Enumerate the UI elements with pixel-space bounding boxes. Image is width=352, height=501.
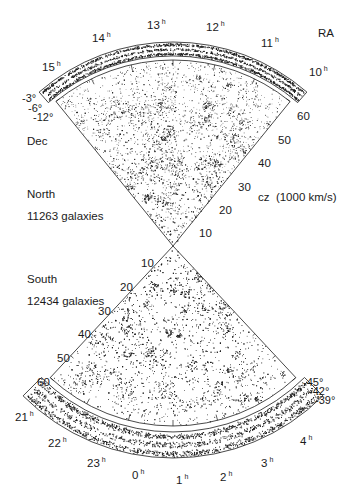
ra-tick-south-4: 4h (300, 434, 312, 448)
cz-tick-north-20: 20 (219, 205, 232, 217)
cz-tick-south-50: 50 (57, 353, 70, 365)
south-galaxy-count: 12434 galaxies (27, 296, 104, 308)
ra-axis-label: RA (318, 28, 334, 40)
cz-tick-north-10: 10 (199, 228, 212, 240)
ra-tick-south-3: 3h (261, 456, 273, 470)
dec-strips (23, 378, 323, 459)
ra-tick-south-2: 2h (220, 470, 232, 484)
ra-tick-north-13: 13h (147, 18, 166, 32)
cz-tick-north-30: 30 (238, 182, 251, 194)
dec-axis-label: Dec (27, 136, 47, 148)
cz-tick-north-60: 60 (297, 111, 310, 123)
cz-tick-south-30: 30 (98, 306, 111, 318)
dec-strips (39, 42, 307, 103)
ra-tick-south-22: 22h (48, 436, 67, 450)
ra-tick-north-12: 12h (206, 20, 225, 34)
ra-tick-north-15: 15h (42, 60, 61, 74)
cz-tick-south-40: 40 (78, 329, 91, 341)
redshift-survey-wedge-diagram (0, 0, 352, 501)
north-region-label: North (27, 189, 55, 201)
ra-tick-south-23: 23h (87, 456, 106, 470)
dec-strip-south-3: -39° (315, 395, 335, 406)
cz-tick-south-20: 20 (120, 282, 133, 294)
dec-strip-north-3: -12° (33, 112, 53, 123)
ra-tick-south-0: 0h (132, 468, 144, 482)
ra-tick-north-11: 11h (261, 36, 279, 50)
ra-tick-south-21: 21h (15, 410, 34, 424)
cz-tick-north-50: 50 (278, 135, 291, 147)
ra-tick-north-10: 10h (309, 65, 328, 79)
cz-tick-south-10: 10 (141, 258, 154, 270)
north-galaxy-count: 11263 galaxies (27, 211, 104, 223)
cz-tick-south-60: 60 (37, 377, 50, 389)
ra-tick-north-14: 14h (92, 31, 111, 45)
ra-tick-south-1: 1h (176, 473, 188, 487)
cz-tick-north-40: 40 (258, 158, 271, 170)
south-region-label: South (27, 274, 57, 286)
cz-axis-label: cz (1000 km/s) (258, 192, 337, 204)
